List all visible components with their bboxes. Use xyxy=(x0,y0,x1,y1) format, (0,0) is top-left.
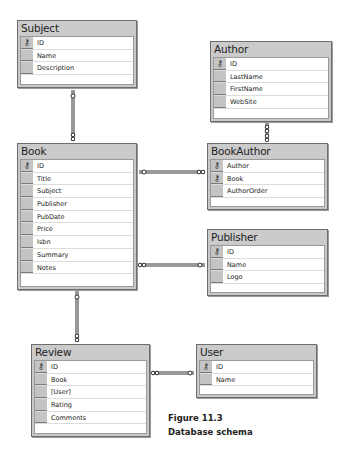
primary-key-icon: ⚷ xyxy=(216,59,224,69)
row-selector xyxy=(35,386,47,398)
row-selector xyxy=(211,185,223,197)
relationship-book-review xyxy=(75,291,79,342)
column-row[interactable]: ⚷ID xyxy=(21,37,133,50)
figure-number: Figure 11.3 xyxy=(168,413,223,423)
column-name: LastName xyxy=(230,71,263,83)
column-name: Name xyxy=(37,50,56,62)
primary-key-icon: ⚷ xyxy=(37,362,45,372)
primary-key-icon: ⚷ xyxy=(23,161,31,171)
row-selector xyxy=(214,71,226,83)
column-row[interactable]: FirstName xyxy=(214,83,328,96)
column-row[interactable]: Logo xyxy=(211,271,324,284)
table-title: BookAuthor xyxy=(208,144,327,158)
column-name: Comments xyxy=(51,412,86,424)
column-row[interactable]: Name xyxy=(200,374,313,387)
column-list: ⚷IDTitleSubjectPublisherPubDatePriceIsbn… xyxy=(20,159,134,287)
column-row[interactable]: ⚷ID xyxy=(35,361,146,374)
table-author[interactable]: Author ⚷IDLastNameFirstNameWebSite xyxy=(210,41,332,122)
table-title: Subject xyxy=(18,21,136,35)
row-selector xyxy=(211,271,223,283)
column-name: ID xyxy=(230,58,237,70)
row-selector xyxy=(21,50,33,62)
column-list: ⚷IDBook[User]RatingComments xyxy=(34,360,147,434)
column-name: Logo xyxy=(227,271,243,283)
column-row[interactable]: ⚷ID xyxy=(211,246,324,259)
column-row[interactable]: Name xyxy=(211,259,324,272)
row-selector xyxy=(21,249,33,261)
column-list: ⚷IDNameLogo xyxy=(210,245,325,293)
table-book[interactable]: Book ⚷IDTitleSubjectPublisherPubDatePric… xyxy=(17,143,137,290)
column-name: Book xyxy=(227,173,243,185)
table-review[interactable]: Review ⚷IDBook[User]RatingComments xyxy=(31,344,150,437)
column-row[interactable]: Notes xyxy=(21,262,133,275)
column-list: ⚷IDName xyxy=(199,360,314,395)
row-selector xyxy=(21,211,33,223)
column-row[interactable]: Name xyxy=(21,50,133,63)
column-name: ID xyxy=(37,160,44,172)
column-row[interactable]: WebSite xyxy=(214,96,328,109)
column-list: ⚷Author⚷BookAuthorOrder xyxy=(210,159,325,207)
column-name: Isbn xyxy=(37,236,51,248)
column-row[interactable]: Description xyxy=(21,62,133,75)
column-name: Publisher xyxy=(37,198,67,210)
column-name: Summary xyxy=(37,249,68,261)
relationship-book-publisher xyxy=(138,263,205,267)
column-name: Name xyxy=(227,259,246,271)
column-name: Rating xyxy=(51,399,72,411)
column-row[interactable]: ⚷ID xyxy=(214,58,328,71)
table-title: Publisher xyxy=(208,230,327,244)
primary-key-icon: ⚷ xyxy=(202,362,210,372)
row-selector xyxy=(35,399,47,411)
row-selector xyxy=(35,374,47,386)
column-row[interactable]: ⚷ID xyxy=(21,160,133,173)
column-row[interactable]: LastName xyxy=(214,71,328,84)
row-selector xyxy=(21,236,33,248)
column-name: [User] xyxy=(51,386,71,398)
row-selector xyxy=(21,262,33,274)
column-row[interactable]: AuthorOrder xyxy=(211,185,324,198)
column-name: PubDate xyxy=(37,211,65,223)
primary-key-icon: ⚷ xyxy=(213,174,221,184)
table-bookauthor[interactable]: BookAuthor ⚷Author⚷BookAuthorOrder xyxy=(207,143,328,210)
primary-key-icon: ⚷ xyxy=(23,38,31,48)
column-row[interactable]: Rating xyxy=(35,399,146,412)
column-name: Book xyxy=(51,374,67,386)
column-name: Name xyxy=(216,374,235,386)
column-row[interactable]: ⚷Author xyxy=(211,160,324,173)
column-row[interactable]: ⚷Book xyxy=(211,173,324,186)
column-name: AuthorOrder xyxy=(227,185,267,197)
row-selector xyxy=(214,83,226,95)
column-row[interactable]: Price xyxy=(21,223,133,236)
table-user[interactable]: User ⚷IDName xyxy=(196,344,317,398)
relationship-review-user xyxy=(151,371,194,375)
column-name: Author xyxy=(227,160,249,172)
table-title: Review xyxy=(32,345,149,359)
table-title: User xyxy=(197,345,316,359)
column-name: ID xyxy=(37,37,44,49)
column-row[interactable]: Title xyxy=(21,173,133,186)
table-subject[interactable]: Subject ⚷IDNameDescription xyxy=(17,20,137,88)
relationship-author-bookauthor xyxy=(265,123,269,142)
column-name: FirstName xyxy=(230,83,263,95)
column-row[interactable]: Subject xyxy=(21,185,133,198)
column-name: WebSite xyxy=(230,96,257,108)
column-row[interactable]: Comments xyxy=(35,412,146,425)
relationship-subject-book xyxy=(71,90,75,141)
column-row[interactable]: Isbn xyxy=(21,236,133,249)
column-row[interactable]: [User] xyxy=(35,386,146,399)
column-list: ⚷IDLastNameFirstNameWebSite xyxy=(213,57,329,119)
column-name: ID xyxy=(216,361,223,373)
column-row[interactable]: Summary xyxy=(21,249,133,262)
column-list: ⚷IDNameDescription xyxy=(20,36,134,85)
row-selector xyxy=(21,185,33,197)
table-title: Book xyxy=(18,144,136,158)
column-row[interactable]: PubDate xyxy=(21,211,133,224)
column-row[interactable]: ⚷ID xyxy=(200,361,313,374)
column-row[interactable]: Publisher xyxy=(21,198,133,211)
column-name: ID xyxy=(51,361,58,373)
table-publisher[interactable]: Publisher ⚷IDNameLogo xyxy=(207,229,328,296)
column-row[interactable]: Book xyxy=(35,374,146,387)
row-selector xyxy=(214,96,226,108)
column-name: Subject xyxy=(37,185,61,197)
column-name: ID xyxy=(227,246,234,258)
